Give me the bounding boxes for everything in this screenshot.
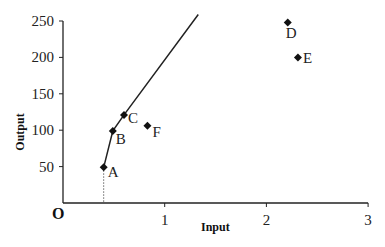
data-point-label-b: B: [116, 131, 126, 147]
origin-label: O: [52, 205, 64, 222]
x-tick-label: 1: [161, 212, 169, 228]
efficiency-frontier-chart: 50100150200250123 ABCDEF Input Output O: [0, 0, 385, 247]
data-point-label-f: F: [152, 124, 160, 140]
y-tick-label: 150: [32, 86, 55, 102]
y-tick-label: 50: [39, 159, 54, 175]
data-point-label-e: E: [303, 50, 312, 66]
data-point-marker-e: [294, 53, 302, 61]
x-tick-label: 3: [364, 212, 372, 228]
data-point-label-c: C: [128, 110, 138, 126]
data-point-label-a: A: [108, 164, 119, 180]
data-point-marker-a: [100, 163, 108, 171]
y-tick-label: 100: [32, 122, 55, 138]
y-axis-title: Output: [13, 113, 27, 150]
y-tick-label: 200: [32, 49, 55, 65]
data-points: ABCDEF: [100, 18, 312, 180]
x-axis-title: Input: [201, 220, 230, 234]
data-point-marker-f: [143, 122, 151, 130]
x-tick-label: 2: [263, 212, 271, 228]
y-tick-label: 250: [32, 13, 55, 29]
data-point-label-d: D: [286, 25, 297, 41]
axis-ticks: 50100150200250123: [32, 13, 372, 228]
